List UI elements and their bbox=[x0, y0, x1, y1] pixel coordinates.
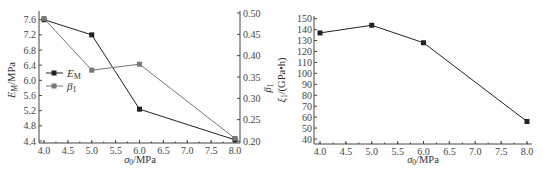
y-tick-label: 7.6 bbox=[24, 14, 37, 25]
y2-tick-label: 0.20 bbox=[243, 136, 261, 147]
y-tick-label: 120 bbox=[297, 46, 312, 57]
data-point bbox=[137, 107, 142, 112]
y-tick-label: 60 bbox=[302, 112, 312, 123]
data-point bbox=[525, 119, 530, 124]
x-tick-label: 4.0 bbox=[38, 145, 51, 156]
y2-tick-label: 0.30 bbox=[243, 93, 261, 104]
legend-em-marker bbox=[52, 71, 57, 76]
y-tick-label: 6.0 bbox=[24, 75, 37, 86]
x-tick-label: 7.5 bbox=[495, 146, 508, 157]
left-y2-axis-label: β1 bbox=[262, 83, 275, 93]
y-tick-label: 4.8 bbox=[24, 120, 37, 131]
y2-tick-label: 0.45 bbox=[243, 29, 261, 40]
y-tick-label: 6.8 bbox=[24, 45, 37, 56]
x-tick-label: 5.0 bbox=[366, 146, 379, 157]
y-tick-label: 6.4 bbox=[24, 60, 37, 71]
x-tick-label: 4.5 bbox=[62, 145, 75, 156]
y-tick-label: 130 bbox=[297, 35, 312, 46]
x-tick-label: 7.5 bbox=[205, 145, 218, 156]
x-tick-label: 5.0 bbox=[86, 145, 99, 156]
series-line bbox=[320, 25, 527, 121]
right-chart-axes: 4.04.55.05.56.06.57.07.58.01501401301201… bbox=[297, 13, 533, 157]
y-tick-label: 5.2 bbox=[24, 105, 37, 116]
left-y-axis-label: EM/MPa bbox=[6, 62, 19, 99]
y-tick-label: 110 bbox=[297, 57, 312, 68]
right-x-axis-label: σ0/MPa bbox=[407, 154, 439, 167]
right-chart: 4.04.55.05.56.06.57.07.58.01501401301201… bbox=[276, 13, 533, 167]
data-point bbox=[89, 32, 94, 37]
x-tick-label: 5.5 bbox=[109, 145, 122, 156]
series-line bbox=[44, 20, 235, 140]
data-point bbox=[233, 136, 238, 141]
x-tick-label: 8.0 bbox=[521, 146, 534, 157]
x-tick-label: 6.5 bbox=[443, 146, 456, 157]
y-tick-label: 50 bbox=[302, 123, 312, 134]
x-tick-label: 8.0 bbox=[229, 145, 242, 156]
data-point bbox=[137, 62, 142, 67]
data-point bbox=[421, 40, 426, 45]
left-chart-axes: 4.04.55.05.56.06.57.07.58.07.67.26.86.46… bbox=[24, 8, 261, 157]
x-tick-label: 4.5 bbox=[340, 146, 353, 157]
y-tick-label: 140 bbox=[297, 24, 312, 35]
left-chart-legend: EM β1 bbox=[46, 67, 81, 94]
y-tick-label: 100 bbox=[297, 68, 312, 79]
y-tick-label: 40 bbox=[302, 134, 312, 145]
y-tick-label: 4.4 bbox=[24, 136, 37, 147]
x-tick-label: 4.0 bbox=[314, 146, 327, 157]
left-x-axis-label: σ0/MPa bbox=[124, 154, 156, 167]
legend-beta-marker bbox=[52, 84, 57, 89]
y2-tick-label: 0.40 bbox=[243, 50, 261, 61]
data-point bbox=[318, 30, 323, 35]
y2-tick-label: 0.35 bbox=[243, 72, 261, 83]
y-tick-label: 5.6 bbox=[24, 90, 37, 101]
x-tick-label: 5.5 bbox=[391, 146, 404, 157]
y-tick-label: 80 bbox=[302, 90, 312, 101]
y-tick-label: 7.2 bbox=[24, 29, 37, 40]
data-point bbox=[89, 68, 94, 73]
data-point bbox=[42, 16, 47, 21]
y-tick-label: 90 bbox=[302, 79, 312, 90]
x-tick-label: 7.0 bbox=[181, 145, 194, 156]
y2-tick-label: 0.25 bbox=[243, 114, 261, 125]
left-chart: 4.04.55.05.56.06.57.07.58.07.67.26.86.46… bbox=[6, 8, 275, 168]
legend-em-label: EM bbox=[66, 67, 81, 81]
x-tick-label: 6.5 bbox=[157, 145, 170, 156]
x-tick-label: 7.0 bbox=[469, 146, 482, 157]
y-tick-label: 70 bbox=[302, 101, 312, 112]
y2-tick-label: 0.50 bbox=[243, 8, 261, 19]
right-chart-series bbox=[318, 23, 530, 124]
y-tick-label: 150 bbox=[297, 13, 312, 24]
data-point bbox=[369, 23, 374, 28]
right-y-axis-label: ξ1/(GPa•h) bbox=[276, 57, 289, 103]
legend-beta-label: β1 bbox=[66, 80, 76, 94]
chart-canvas: 4.04.55.05.56.06.57.07.58.07.67.26.86.46… bbox=[0, 0, 543, 173]
